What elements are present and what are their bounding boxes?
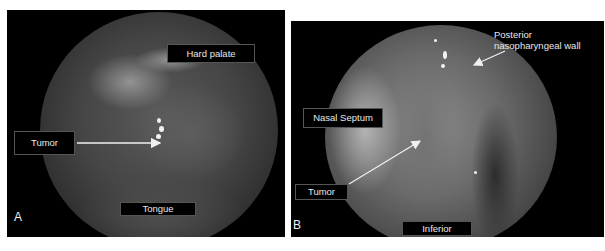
panel-a-endoscopic-image: Hard palate Tumor Tongue A (7, 10, 285, 237)
panel-b-endoscopic-image: Posterior nasopharyngeal wall Nasal Sept… (291, 21, 604, 237)
panel-letter-b: B (293, 218, 301, 232)
annotation-arrows-b (291, 21, 604, 237)
arrow-tumor-b (349, 141, 420, 184)
panel-letter-a: A (14, 210, 22, 224)
arrow-posterior-wall (474, 51, 505, 65)
arrow-tumor-a (7, 10, 285, 237)
